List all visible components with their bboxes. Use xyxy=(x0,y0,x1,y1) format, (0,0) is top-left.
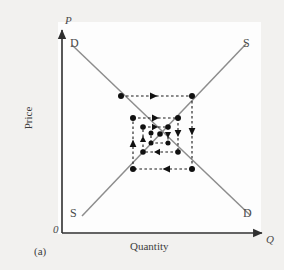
cobweb-point xyxy=(175,115,181,121)
x-axis-title: Quantity xyxy=(130,240,169,252)
supply-label-bottom: S xyxy=(70,206,77,221)
cobweb-point xyxy=(140,124,146,130)
arrow-down-2 xyxy=(175,130,182,137)
figure-caption: (a) xyxy=(34,245,46,257)
demand-label-top: D xyxy=(70,36,79,51)
cobweb-point xyxy=(140,149,146,155)
arrow-down-1 xyxy=(189,128,196,136)
cobweb-point xyxy=(130,166,136,172)
cobweb-point xyxy=(149,141,154,146)
x-axis-tip-label: Q xyxy=(266,233,274,245)
cobweb-points xyxy=(118,93,195,172)
cobweb-point xyxy=(166,141,171,146)
cobweb-plot-svg xyxy=(0,0,284,270)
arrow-right-2 xyxy=(152,115,159,122)
arrow-left-1 xyxy=(163,166,171,173)
arrow-left-2 xyxy=(154,149,160,155)
arrow-right-1 xyxy=(150,93,158,100)
supply-label-top: S xyxy=(243,36,250,51)
cobweb-point xyxy=(149,131,154,136)
supply-curve xyxy=(82,44,246,216)
equilibrium-point xyxy=(157,131,163,137)
demand-curve xyxy=(72,45,250,215)
demand-label-bottom: D xyxy=(243,206,252,221)
arrow-up-1 xyxy=(130,140,137,148)
arrow-up-2 xyxy=(140,136,146,142)
figure-root: P Q 0 D S S D Quantity Price (a) xyxy=(0,0,284,270)
cobweb-point xyxy=(189,166,195,172)
cobweb-point xyxy=(130,115,136,121)
cobweb-dashed-path xyxy=(121,96,192,169)
origin-label: 0 xyxy=(53,223,59,235)
y-axis-title: Price xyxy=(22,88,34,148)
cobweb-point xyxy=(165,124,171,130)
y-axis-tip-label: P xyxy=(65,14,72,26)
cobweb-point xyxy=(175,149,181,155)
cobweb-point xyxy=(189,93,195,99)
cobweb-point xyxy=(118,93,124,99)
